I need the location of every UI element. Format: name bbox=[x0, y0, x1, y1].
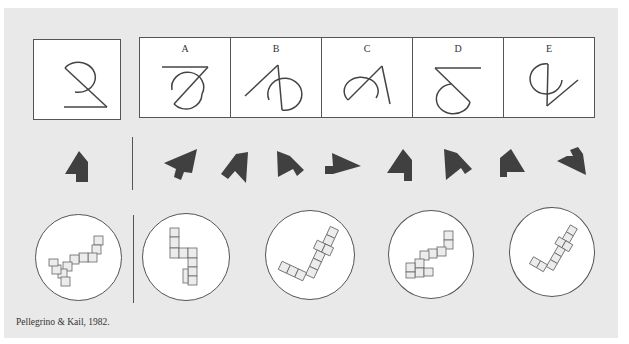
option-e-figure bbox=[504, 38, 595, 119]
polygon-option-6-icon[interactable] bbox=[441, 146, 475, 182]
cube-option-3-circle[interactable] bbox=[388, 210, 474, 299]
row1-target-box bbox=[33, 39, 121, 120]
cube-option-1-figure bbox=[143, 214, 231, 302]
cube-option-2-figure bbox=[266, 211, 356, 301]
cube-option-4-circle[interactable] bbox=[509, 207, 595, 297]
polygon-option-4-icon[interactable] bbox=[324, 149, 366, 179]
option-e[interactable]: E bbox=[504, 38, 594, 117]
option-a[interactable]: A bbox=[140, 38, 231, 117]
option-a-figure bbox=[140, 38, 231, 119]
polygon-option-7-icon[interactable] bbox=[497, 146, 529, 180]
row3-divider bbox=[133, 215, 134, 303]
polygon-option-8-icon[interactable] bbox=[553, 144, 589, 180]
cube-option-4-figure bbox=[510, 208, 596, 298]
target-cube-figure bbox=[36, 215, 123, 302]
cube-option-3-figure bbox=[389, 211, 475, 300]
figure-caption: Pellegrino & Kail, 1982. bbox=[16, 317, 110, 327]
target-cube-circle bbox=[35, 214, 122, 301]
option-d-figure bbox=[413, 38, 504, 119]
option-b-figure bbox=[231, 38, 322, 119]
option-c[interactable]: C bbox=[322, 38, 413, 117]
polygon-option-1-icon[interactable] bbox=[160, 146, 200, 182]
option-d[interactable]: D bbox=[413, 38, 504, 117]
target-polygon-icon bbox=[62, 148, 98, 186]
row1-options: A B C D bbox=[139, 37, 595, 118]
polygon-option-2-icon[interactable] bbox=[215, 149, 251, 185]
polygon-option-5-icon[interactable] bbox=[384, 146, 418, 184]
cube-option-1-circle[interactable] bbox=[142, 213, 230, 301]
option-c-figure bbox=[322, 38, 413, 119]
cube-option-2-circle[interactable] bbox=[265, 210, 355, 300]
polygon-option-3-icon[interactable] bbox=[274, 148, 308, 182]
option-b[interactable]: B bbox=[231, 38, 322, 117]
row2-divider bbox=[132, 137, 133, 190]
target-line-figure bbox=[34, 40, 122, 121]
